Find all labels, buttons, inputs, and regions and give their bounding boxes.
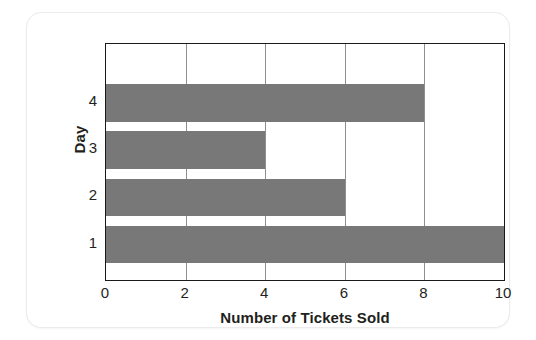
bar-day-4 bbox=[106, 84, 424, 122]
x-tick-label-10: 10 bbox=[483, 284, 523, 301]
x-tick-label-0: 0 bbox=[85, 284, 125, 301]
bar-day-2 bbox=[106, 179, 345, 217]
bar-day-3 bbox=[106, 131, 265, 169]
x-tick-label-6: 6 bbox=[324, 284, 364, 301]
x-tick-label-8: 8 bbox=[403, 284, 443, 301]
y-tick-label-4: 4 bbox=[75, 92, 97, 109]
x-axis-title: Number of Tickets Sold bbox=[105, 309, 505, 326]
bar-day-1 bbox=[106, 226, 504, 264]
y-tick-label-1: 1 bbox=[75, 234, 97, 251]
x-tick-label-4: 4 bbox=[244, 284, 284, 301]
y-tick-label-2: 2 bbox=[75, 186, 97, 203]
y-tick-label-3: 3 bbox=[75, 139, 97, 156]
chart-card: Day 0246810 1234 Number of Tickets Sold bbox=[26, 12, 510, 328]
plot-area bbox=[105, 43, 505, 281]
x-tick-label-2: 2 bbox=[165, 284, 205, 301]
